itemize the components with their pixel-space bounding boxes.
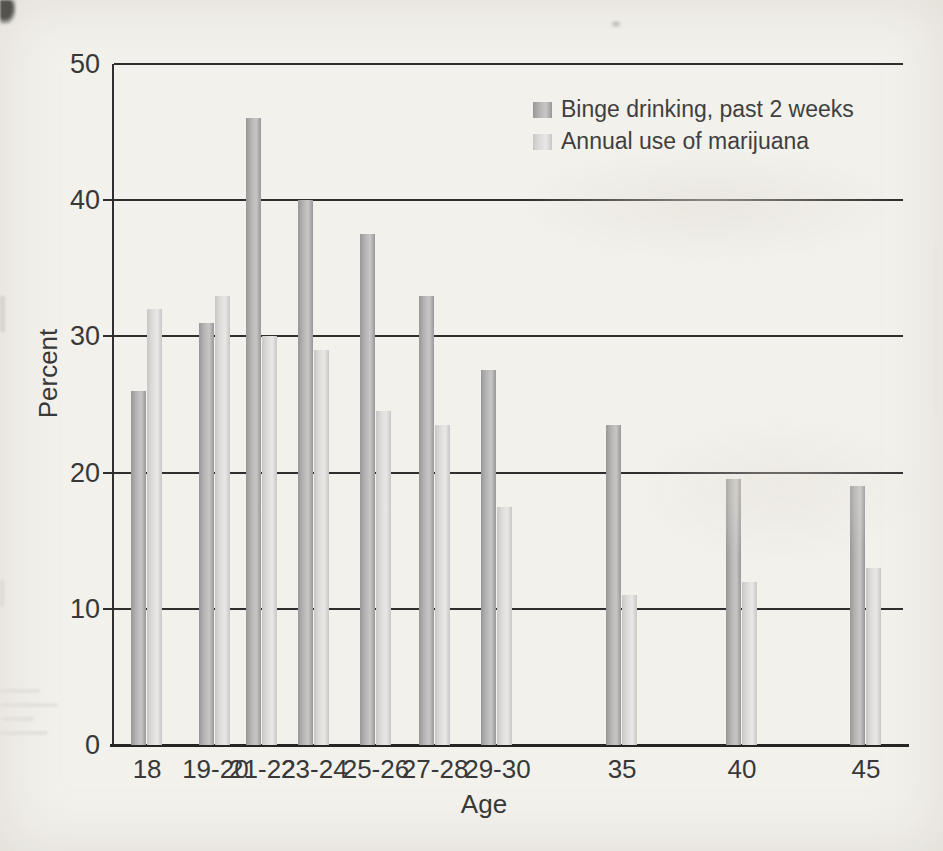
y-tick-label-30: 30 — [28, 322, 100, 350]
bar-binge-19-20 — [199, 323, 214, 745]
y-tick-label-0: 0 — [28, 731, 100, 759]
y-axis-line — [112, 64, 114, 745]
x-tick-label-27-28: 27-28 — [402, 754, 469, 785]
bar-group-35 — [606, 64, 638, 745]
x-tick-label-18: 18 — [133, 754, 162, 785]
scan-smudge-artifact — [0, 0, 16, 24]
page-showthrough-artifact — [0, 703, 58, 707]
bar-binge-25-26 — [360, 234, 375, 745]
scan-edge-mark-artifact — [0, 296, 5, 332]
bar-binge-18 — [131, 391, 146, 745]
bar-marijuana-40 — [742, 582, 757, 745]
y-tick-label-20: 20 — [28, 459, 100, 487]
scan-speck-artifact — [612, 21, 620, 27]
bar-group-45 — [850, 64, 882, 745]
bar-marijuana-25-26 — [376, 411, 391, 745]
y-tick-30 — [103, 335, 114, 337]
scan-streak-artifact — [934, 248, 938, 413]
x-axis-title: Age — [461, 789, 507, 820]
scanned-page-background: Percent 1819-2021-2223-2425-2627-2829-30… — [0, 0, 943, 851]
bar-group-40 — [726, 64, 758, 745]
bar-group-18 — [131, 64, 163, 745]
x-tick-label-29-30: 29-30 — [464, 754, 531, 785]
y-tick-label-10: 10 — [28, 595, 100, 623]
y-tick-40 — [103, 199, 114, 201]
legend-swatch-binge-icon — [533, 102, 552, 118]
bar-marijuana-21-22 — [262, 336, 277, 745]
bar-group-23-24 — [298, 64, 330, 745]
y-tick-label-50: 50 — [28, 50, 100, 78]
bar-binge-35 — [606, 425, 621, 745]
page-showthrough-artifact — [0, 689, 40, 693]
y-tick-20 — [103, 472, 114, 474]
bar-binge-23-24 — [298, 200, 313, 745]
bar-marijuana-29-30 — [497, 507, 512, 745]
page-showthrough-artifact — [2, 717, 34, 721]
bar-marijuana-23-24 — [314, 350, 329, 745]
y-axis-title: Percent — [33, 284, 64, 464]
legend-item-marijuana: Annual use of marijuana — [533, 128, 854, 155]
x-tick-label-40: 40 — [728, 754, 757, 785]
bar-group-19-20 — [199, 64, 231, 745]
y-tick-label-40: 40 — [28, 186, 100, 214]
bar-marijuana-45 — [866, 568, 881, 745]
legend-item-binge: Binge drinking, past 2 weeks — [533, 96, 854, 123]
bar-binge-27-28 — [419, 296, 434, 745]
bar-binge-40 — [726, 479, 741, 745]
bar-binge-45 — [850, 486, 865, 745]
bar-marijuana-19-20 — [215, 296, 230, 745]
legend-label-binge: Binge drinking, past 2 weeks — [561, 96, 854, 123]
plot-area: 1819-2021-2223-2425-2627-2829-30354045 A… — [114, 64, 903, 745]
bar-group-25-26 — [360, 64, 392, 745]
bar-group-21-22 — [246, 64, 278, 745]
legend-label-marijuana: Annual use of marijuana — [561, 128, 809, 155]
bar-binge-29-30 — [481, 370, 496, 745]
y-tick-10 — [103, 608, 114, 610]
legend: Binge drinking, past 2 weeks Annual use … — [533, 96, 854, 155]
bar-marijuana-35 — [622, 595, 637, 745]
x-tick-label-35: 35 — [608, 754, 637, 785]
bar-group-29-30 — [481, 64, 513, 745]
legend-swatch-marijuana-icon — [533, 134, 552, 150]
bar-group-27-28 — [419, 64, 451, 745]
bar-marijuana-27-28 — [435, 425, 450, 745]
bar-binge-21-22 — [246, 118, 261, 745]
x-tick-label-45: 45 — [851, 754, 880, 785]
x-tick-label-25-26: 25-26 — [343, 754, 410, 785]
bar-marijuana-18 — [147, 309, 162, 745]
scan-edge-mark-artifact — [0, 580, 4, 606]
x-tick-label-23-24: 23-24 — [281, 754, 348, 785]
